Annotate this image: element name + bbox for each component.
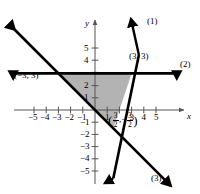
- x-tick-label--4: −4: [40, 113, 50, 122]
- open-paren: (: [108, 113, 112, 128]
- graph-figure: −5 −4 −3 −2 −1 1 3 4 5 5 4 2 1 −1 −2 −3 …: [0, 0, 200, 194]
- y-tick-label--1: −1: [80, 118, 90, 127]
- y-tick-label-2: 2: [84, 81, 89, 90]
- x-tick-label--2: −2: [65, 113, 75, 122]
- x-tick-label--3: −3: [52, 113, 62, 122]
- vertex-label-bottom: (32,−32): [108, 112, 138, 129]
- line-label-2: (2): [180, 60, 191, 69]
- fraction-three-halves-positive: 32: [113, 112, 119, 129]
- minus-sign: −: [121, 114, 126, 124]
- y-tick-label-1: 1: [84, 93, 89, 102]
- line-label-1: (1): [147, 17, 158, 26]
- coordinate-plane: [0, 0, 200, 194]
- x-axis-label: x: [187, 112, 191, 121]
- close-paren: ): [133, 113, 137, 128]
- fraction-denominator: 2: [113, 121, 119, 129]
- vertex-label-left: (−3, 3): [14, 71, 39, 80]
- line-label-3: (3): [151, 174, 162, 183]
- y-tick-label-5: 5: [84, 44, 89, 53]
- fraction-denominator: 2: [127, 121, 133, 129]
- y-axis-label: y: [85, 19, 89, 28]
- y-tick-label--2: −2: [80, 130, 90, 139]
- fraction-three-halves-negative: 32: [127, 112, 133, 129]
- x-tick-label-4: 4: [142, 113, 147, 122]
- x-tick-label-5: 5: [154, 113, 159, 122]
- y-tick-label-4: 4: [84, 56, 89, 65]
- y-tick-label--5: −5: [80, 167, 90, 176]
- x-tick-label--5: −5: [28, 113, 38, 122]
- y-tick-label--4: −4: [80, 154, 90, 163]
- vertex-label-right: (3, 3): [129, 52, 149, 61]
- y-tick-label--3: −3: [80, 142, 90, 151]
